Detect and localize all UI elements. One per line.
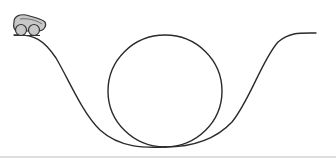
loop-track <box>108 35 222 147</box>
cart-icon <box>14 15 46 36</box>
right-slope-track <box>165 33 316 147</box>
left-slope-track <box>14 35 165 147</box>
roller-coaster-diagram <box>0 0 336 159</box>
cart-wheel-right <box>29 25 40 36</box>
cart-wheel-left <box>16 25 27 36</box>
